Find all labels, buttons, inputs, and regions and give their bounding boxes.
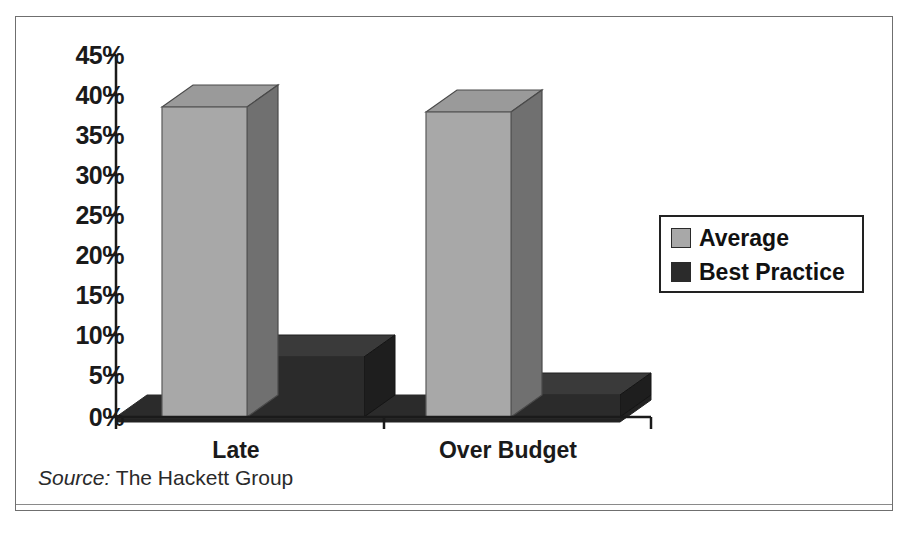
source-note: Source: The Hackett Group [38, 466, 293, 490]
legend-item-average[interactable]: Average [671, 221, 862, 255]
legend-swatch-average-icon [671, 228, 691, 248]
x-tick-label-over-budget: Over Budget [439, 437, 577, 464]
legend-label-average: Average [699, 227, 789, 250]
x-tick-label-late: Late [212, 437, 259, 464]
chart-plot-area: 45% 40% 35% 30% 25% 20% 15% 10% 5% 0% La… [16, 17, 894, 457]
figure-frame: 45% 40% 35% 30% 25% 20% 15% 10% 5% 0% La… [15, 16, 893, 511]
source-divider [16, 504, 892, 505]
legend-swatch-best-practice-icon [671, 262, 691, 282]
legend-label-best-practice: Best Practice [699, 261, 845, 284]
chart-legend: Average Best Practice [659, 215, 864, 293]
source-note-label: Source: [38, 466, 110, 489]
legend-item-best-practice[interactable]: Best Practice [671, 255, 862, 289]
source-note-value: The Hackett Group [116, 466, 293, 489]
